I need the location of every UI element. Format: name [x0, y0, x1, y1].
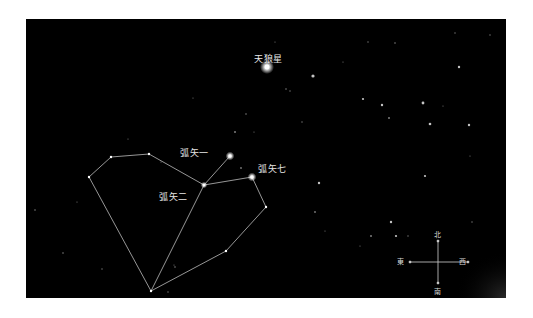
compass-north-label: 北 [434, 231, 441, 239]
star-label: 弧矢七 [258, 164, 287, 174]
star-chart: 天狼星弧矢一弧矢七弧矢二 北 南 東 西 [26, 19, 506, 298]
star-label: 天狼星 [254, 54, 283, 64]
constellation-lines [89, 154, 266, 291]
compass-west-label: 西 [459, 258, 466, 266]
star-label: 弧矢二 [159, 192, 188, 202]
compass-south-label: 南 [434, 288, 441, 296]
compass-east-label: 東 [397, 258, 404, 266]
star-label: 弧矢一 [180, 148, 209, 158]
